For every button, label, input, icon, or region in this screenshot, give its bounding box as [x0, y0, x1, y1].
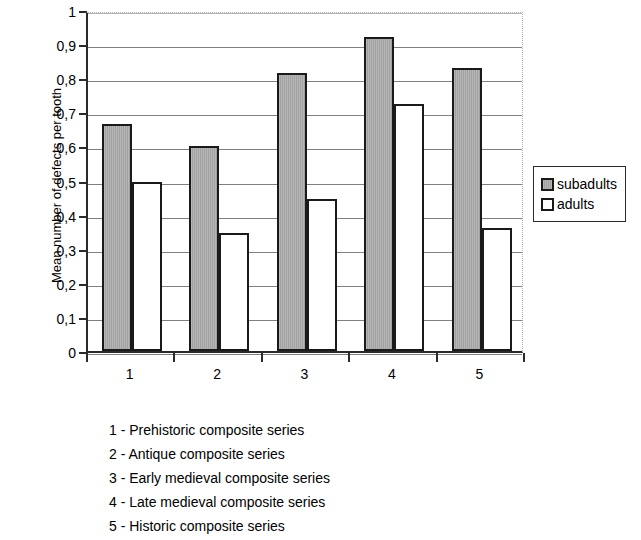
x-axis-tick-label: 4	[372, 366, 412, 382]
legend-item-subadults: subadults	[541, 174, 617, 194]
bar-group	[263, 13, 350, 351]
caption-line: 1 - Prehistoric composite series	[109, 418, 529, 442]
caption-line: 2 - Antique composite series	[109, 442, 529, 466]
bar-subadults	[452, 68, 482, 351]
bar-subadults	[102, 124, 132, 351]
y-axis-tick-label: 0,2	[16, 278, 76, 292]
y-axis-tick-label: 0,8	[16, 73, 76, 87]
x-axis-tick-mark	[261, 353, 263, 362]
x-axis-tick-mark	[523, 353, 525, 362]
gridline	[88, 354, 522, 355]
legend-box: subadultsadults	[533, 166, 626, 222]
legend-item-label: subadults	[557, 177, 617, 191]
bar-adults	[132, 182, 162, 351]
bars-layer	[88, 13, 522, 351]
bar-adults	[394, 104, 424, 351]
x-axis-tick-mark	[86, 353, 88, 362]
gray-filled-square-icon	[541, 178, 554, 191]
bar-subadults	[277, 73, 307, 351]
x-axis-tick-label: 2	[197, 366, 237, 382]
bar-subadults	[189, 146, 219, 351]
bar-adults	[482, 228, 512, 351]
caption-line: 4 - Late medieval composite series	[109, 490, 529, 514]
bar-adults	[219, 233, 249, 351]
y-axis-tick-label: 0,4	[16, 210, 76, 224]
y-axis-tick-label: 0,1	[16, 312, 76, 326]
plot-area	[86, 12, 523, 353]
bar-group	[350, 13, 437, 351]
bar-subadults	[364, 37, 394, 351]
x-axis-tick-label: 1	[110, 366, 150, 382]
x-axis-tick-mark	[173, 353, 175, 362]
y-axis-tick-label: 0,9	[16, 39, 76, 53]
y-axis-tick-label: 1	[16, 5, 76, 19]
bar-group	[438, 13, 525, 351]
y-axis-tick-label: 0,3	[16, 244, 76, 258]
y-axis-tick-label: 0,6	[16, 141, 76, 155]
caption-block: 1 - Prehistoric composite series2 - Anti…	[109, 418, 529, 538]
y-axis-tick-label: 0,5	[16, 176, 76, 190]
legend-item-label: adults	[557, 197, 594, 211]
x-axis-tick-label: 5	[459, 366, 499, 382]
x-axis-tick-label: 3	[285, 366, 325, 382]
bar-adults	[307, 199, 337, 351]
bar-group	[175, 13, 262, 351]
caption-line: 3 - Early medieval composite series	[109, 466, 529, 490]
legend-item-adults: adults	[541, 194, 617, 214]
white-filled-square-icon	[541, 198, 554, 211]
caption-line: 5 - Historic composite series	[109, 514, 529, 538]
x-axis-tick-mark	[436, 353, 438, 362]
bar-chart-figure: Mean number of defects per tooth 00,10,2…	[0, 0, 641, 540]
y-axis-tick-label: 0	[16, 346, 76, 360]
x-axis-tick-mark	[348, 353, 350, 362]
bar-group	[88, 13, 175, 351]
y-axis-tick-label: 0,7	[16, 107, 76, 121]
